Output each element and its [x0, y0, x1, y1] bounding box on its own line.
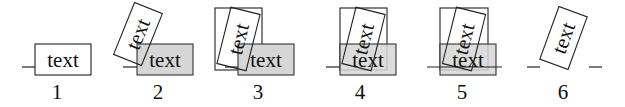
panel-number: 5: [457, 80, 468, 104]
panel-6: text 6: [527, 7, 602, 104]
panel-number: 6: [558, 80, 569, 104]
rotated-text-box: text: [540, 7, 587, 70]
panel-number: 2: [153, 80, 164, 104]
box-text: text: [149, 48, 181, 72]
panel-3: text text 3: [215, 7, 294, 104]
panel-5: text text 5: [427, 7, 502, 104]
panel-1: text 1: [22, 44, 91, 104]
panel-number: 1: [52, 80, 63, 104]
box-text: text: [250, 48, 282, 72]
panel-number: 3: [253, 80, 264, 104]
label-placement-diagram: text 1 text text 2 text text 3 text text: [0, 0, 625, 107]
box-text: text: [47, 48, 79, 72]
panel-4: text text 4: [326, 7, 396, 104]
panel-2: text text 2: [114, 2, 193, 104]
panel-number: 4: [355, 80, 366, 104]
